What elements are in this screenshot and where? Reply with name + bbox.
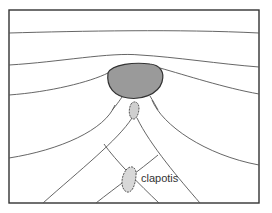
refraction-line-right-short	[150, 96, 158, 110]
wave-crest-1	[9, 31, 259, 33]
wave-crest-4-right	[152, 100, 259, 165]
small-shoal	[129, 102, 139, 119]
clapotis-zone	[122, 167, 136, 192]
converging-line-left	[43, 118, 132, 203]
wave-crest-3-left	[9, 73, 108, 95]
wave-refraction-diagram: clapotis	[0, 0, 272, 213]
wave-crest-4-left	[9, 105, 115, 158]
wave-crest-3-right	[160, 68, 259, 94]
island	[108, 63, 163, 98]
clapotis-label: clapotis	[141, 172, 179, 184]
converging-line-right	[137, 118, 200, 203]
